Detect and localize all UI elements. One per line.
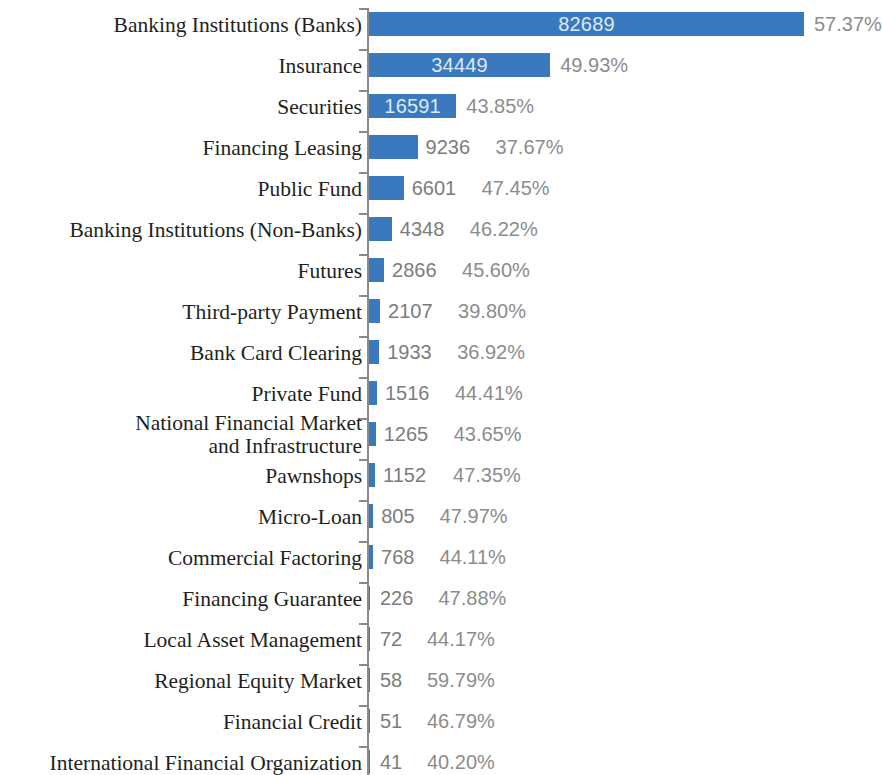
- bar-value-label: 4348: [400, 217, 445, 241]
- bar-row: Financial Credit5146.79%: [0, 705, 882, 746]
- bar-value-label: 1516: [385, 381, 430, 405]
- bar: [369, 217, 392, 241]
- bar-value-label: 16591: [369, 94, 456, 118]
- axis-tick: [359, 500, 368, 502]
- bar-percent-label: 49.93%: [560, 53, 628, 77]
- axis-tick: [359, 131, 368, 133]
- category-label: International Financial Organization: [0, 752, 362, 775]
- axis-tick: [359, 746, 368, 748]
- bar-value-label: 226: [380, 586, 413, 610]
- bar-percent-label: 59.79%: [427, 668, 495, 692]
- category-label: Public Fund: [0, 178, 362, 201]
- bar-row: Micro-Loan80547.97%: [0, 500, 882, 541]
- bar-value-label: 2866: [392, 258, 437, 282]
- bar-row: Financing Leasing923637.67%: [0, 131, 882, 172]
- bar-row: Banking Institutions (Banks)8268957.37%: [0, 8, 882, 49]
- bar-percent-label: 37.67%: [496, 135, 564, 159]
- category-label: Private Fund: [0, 383, 362, 406]
- bar-row: Insurance3444949.93%: [0, 49, 882, 90]
- bar-percent-label: 44.41%: [455, 381, 523, 405]
- bar-row: Regional Equity Market5859.79%: [0, 664, 882, 705]
- axis-tick: [359, 664, 368, 666]
- axis-tick: [359, 8, 368, 10]
- bar: [369, 258, 384, 282]
- category-label: Financing Leasing: [0, 137, 362, 160]
- category-label: Micro-Loan: [0, 506, 362, 529]
- bar-row: Securities1659143.85%: [0, 90, 882, 131]
- bar-value-label: 1152: [383, 463, 426, 487]
- bar-percent-label: 43.65%: [454, 422, 522, 446]
- bar-percent-label: 44.11%: [440, 545, 506, 569]
- bar: [369, 299, 380, 323]
- axis-tick: [359, 90, 368, 92]
- bar-percent-label: 47.35%: [453, 463, 521, 487]
- category-label: Insurance: [0, 55, 362, 78]
- bar-percent-label: 46.79%: [427, 709, 495, 733]
- bar: [369, 463, 375, 487]
- axis-tick: [359, 623, 368, 625]
- bar: [369, 586, 370, 610]
- bar-percent-label: 36.92%: [457, 340, 525, 364]
- category-label: National Financial Market and Infrastruc…: [0, 412, 362, 458]
- bar-value-label: 72: [380, 627, 402, 651]
- category-label: Third-party Payment: [0, 301, 362, 324]
- category-label: Pawnshops: [0, 465, 362, 488]
- axis-tick: [359, 705, 368, 707]
- bar-percent-label: 40.20%: [427, 750, 495, 774]
- axis-tick: [359, 213, 368, 215]
- horizontal-bar-chart: Banking Institutions (Banks)8268957.37%I…: [0, 0, 882, 775]
- category-label: Banking Institutions (Banks): [0, 14, 362, 37]
- bar-value-label: 41: [380, 750, 402, 774]
- axis-tick: [359, 254, 368, 256]
- axis-tick: [359, 295, 368, 297]
- bar-value-label: 9236: [426, 135, 471, 159]
- bar-value-label: 82689: [369, 12, 804, 36]
- axis-tick: [359, 172, 368, 174]
- bar-value-label: 2107: [388, 299, 433, 323]
- bar-value-label: 51: [380, 709, 402, 733]
- bar-row: International Financial Organization4140…: [0, 746, 882, 775]
- category-label: Securities: [0, 96, 362, 119]
- bar-row: Banking Institutions (Non-Banks)434846.2…: [0, 213, 882, 254]
- category-label: Regional Equity Market: [0, 670, 362, 693]
- bar: [369, 422, 376, 446]
- bar-value-label: 1933: [387, 340, 432, 364]
- bar-value-label: 1265: [384, 422, 429, 446]
- bar-percent-label: 39.80%: [458, 299, 526, 323]
- category-label: Commercial Factoring: [0, 547, 362, 570]
- bar-row: Bank Card Clearing193336.92%: [0, 336, 882, 377]
- bar-value-label: 58: [380, 668, 402, 692]
- category-label: Financial Credit: [0, 711, 362, 734]
- axis-tick: [359, 582, 368, 584]
- bar-percent-label: 44.17%: [427, 627, 495, 651]
- bar-percent-label: 46.22%: [470, 217, 538, 241]
- bar-row: Financing Guarantee22647.88%: [0, 582, 882, 623]
- axis-tick: [359, 49, 368, 51]
- bar-value-label: 34449: [369, 53, 550, 77]
- axis-tick: [359, 377, 368, 379]
- bar-row: Futures286645.60%: [0, 254, 882, 295]
- category-label: Bank Card Clearing: [0, 342, 362, 365]
- bar-value-label: 768: [381, 545, 414, 569]
- bar: [369, 176, 404, 200]
- bar-row: National Financial Market and Infrastruc…: [0, 418, 882, 459]
- bar-row: Commercial Factoring76844.11%: [0, 541, 882, 582]
- bar: [369, 545, 373, 569]
- bar: [369, 340, 379, 364]
- bar-percent-label: 47.88%: [439, 586, 507, 610]
- category-label: Banking Institutions (Non-Banks): [0, 219, 362, 242]
- bar-percent-label: 45.60%: [462, 258, 530, 282]
- bar-row: Pawnshops115247.35%: [0, 459, 882, 500]
- bar-row: Public Fund660147.45%: [0, 172, 882, 213]
- bar: [369, 381, 377, 405]
- bar: [369, 135, 418, 159]
- bar-percent-label: 57.37%: [814, 12, 882, 36]
- bar-percent-label: 43.85%: [466, 94, 534, 118]
- bar-row: Third-party Payment210739.80%: [0, 295, 882, 336]
- bar-percent-label: 47.45%: [482, 176, 550, 200]
- category-label: Financing Guarantee: [0, 588, 362, 611]
- bar-percent-label: 47.97%: [440, 504, 508, 528]
- category-label: Futures: [0, 260, 362, 283]
- bar-value-label: 805: [381, 504, 414, 528]
- bar: [369, 504, 373, 528]
